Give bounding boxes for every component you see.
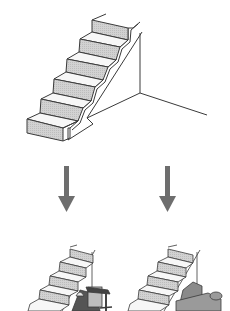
sofa-seating [176, 282, 222, 311]
top-staircase [27, 14, 207, 141]
arrow-left-icon [58, 166, 75, 212]
diagram-canvas [0, 0, 230, 311]
arrow-right-icon [159, 166, 176, 212]
floor-line-right [140, 93, 207, 115]
sofa-arm [210, 292, 222, 300]
bottom-right-staircase-sofa [128, 245, 222, 311]
bottom-left-staircase-desk [28, 245, 112, 311]
